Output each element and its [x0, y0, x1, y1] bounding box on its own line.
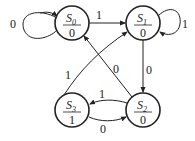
state-s1: S1 0	[126, 6, 160, 40]
transition-s2-s0	[84, 36, 132, 97]
state-diagram: S0 0 S1 0 S2 0 S3 1 0 1 1 0 0 1 1 0	[0, 0, 195, 141]
label-s3-s2: 0	[100, 122, 106, 136]
transition-s1-self	[158, 10, 180, 35]
state-s1-output: 0	[140, 26, 146, 40]
transition-s3-s2	[89, 117, 126, 121]
state-s3-output: 1	[69, 113, 75, 127]
state-s2: S2 0	[126, 93, 160, 127]
state-s3: S3 1	[55, 93, 89, 127]
state-s0: S0 0	[55, 6, 89, 40]
label-s3-s1: 1	[65, 68, 71, 82]
state-s2-output: 0	[140, 113, 146, 127]
transition-s0-self	[23, 13, 57, 39]
transition-s2-s3	[90, 100, 127, 104]
state-s0-output: 0	[69, 26, 75, 40]
label-s1-s2: 0	[146, 63, 152, 77]
label-s0-s1: 1	[96, 8, 102, 22]
label-s1-self: 1	[182, 17, 188, 31]
label-s0-self: 0	[10, 17, 16, 31]
label-s2-s3: 1	[99, 87, 105, 101]
label-s2-s0: 0	[113, 62, 119, 76]
